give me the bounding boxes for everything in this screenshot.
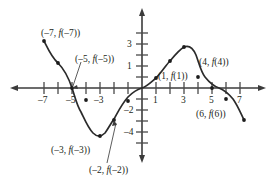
point-label-neg5: (–5, f(–5)) <box>75 55 114 65</box>
x-axis <box>10 82 266 94</box>
point-label-neg3: (–3, f(–3)) <box>51 146 90 156</box>
leader-line-neg5 <box>73 62 81 86</box>
y-tick-label-1: 1 <box>127 62 132 72</box>
point-label-1-close: (1)) <box>173 71 187 81</box>
x-tick-label-neg5: –5 <box>66 96 76 106</box>
point-label-neg7-open: (–7, <box>41 28 58 38</box>
point-label-neg5-close: (–5)) <box>95 54 114 64</box>
y-tick-label-neg4: –4 <box>124 128 134 138</box>
data-point <box>210 86 214 90</box>
data-point <box>42 39 46 43</box>
data-point <box>84 98 88 102</box>
data-point <box>224 97 228 101</box>
x-tick-label-1: 1 <box>153 96 158 106</box>
point-label-neg7: (–7, f(–7)) <box>41 29 80 39</box>
data-point <box>168 59 172 63</box>
point-label-1-open: (1, <box>158 71 171 81</box>
x-tick-label-5: 5 <box>209 96 214 106</box>
x-tick-label-neg3: –3 <box>94 96 104 106</box>
y-axis-arrow-down <box>139 155 145 163</box>
point-label-6-open: (6, <box>196 109 209 119</box>
data-point <box>126 99 130 103</box>
data-point <box>196 75 200 79</box>
point-label-4: (4, f(4)) <box>199 58 229 68</box>
graph-figure: –7 –5 –3 1 3 5 7 3 1 –2 –4 (–7, f(–7)) (… <box>0 0 276 188</box>
point-label-6: (6, f(6)) <box>196 110 226 120</box>
point-label-6-close: (6)) <box>211 109 225 119</box>
x-axis-arrow-right <box>258 85 266 91</box>
point-label-neg5-open: (–5, <box>75 54 92 64</box>
x-tick-label-neg7: –7 <box>38 96 48 106</box>
data-point <box>98 134 102 138</box>
point-label-1: (1, f(1)) <box>158 72 188 82</box>
point-label-neg3-close: (–3)) <box>71 145 90 155</box>
point-label-neg2: (–2, f(–2)) <box>89 166 128 176</box>
point-label-neg2-close: (–2)) <box>109 165 128 175</box>
x-tick-label-3: 3 <box>181 96 186 106</box>
y-tick-label-3: 3 <box>127 40 132 50</box>
data-point <box>242 118 246 122</box>
y-axis-arrow-up <box>139 8 145 16</box>
point-label-neg7-close: (–7)) <box>61 28 80 38</box>
x-tick-label-7: 7 <box>237 96 242 106</box>
point-label-neg2-open: (–2, <box>89 165 106 175</box>
x-axis-arrow-left <box>10 85 18 91</box>
point-label-4-open: (4, <box>199 57 212 67</box>
data-point <box>56 61 60 65</box>
point-label-neg3-open: (–3, <box>51 145 68 155</box>
data-point <box>182 45 186 49</box>
point-label-4-close: (4)) <box>214 57 228 67</box>
y-tick-label-neg2: –2 <box>124 106 134 116</box>
